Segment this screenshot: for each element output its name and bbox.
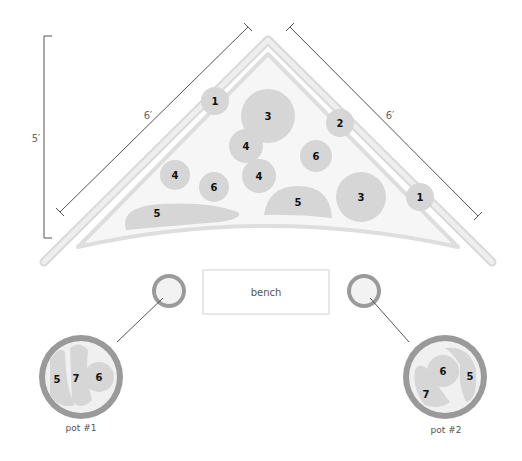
svg-text:1: 1 [417, 192, 424, 203]
svg-text:1: 1 [212, 96, 219, 107]
svg-text:3: 3 [265, 111, 272, 122]
small-pot-left [152, 274, 186, 308]
svg-text:6: 6 [211, 182, 218, 193]
height-label: 5′ [32, 133, 41, 144]
right-side-label: 6′ [386, 110, 395, 121]
bed-frame [44, 40, 492, 262]
svg-text:2: 2 [337, 118, 344, 129]
plant-label: 5 [154, 208, 161, 219]
pot-1: 5 7 6 [39, 335, 123, 419]
svg-text:7: 7 [73, 373, 80, 384]
svg-text:5: 5 [54, 374, 61, 385]
svg-text:4: 4 [172, 170, 179, 181]
svg-text:6: 6 [440, 366, 447, 377]
svg-text:3: 3 [358, 192, 365, 203]
pot-2-label: pot #2 [431, 425, 462, 435]
pot-2: 6 5 7 [403, 335, 487, 419]
svg-text:6: 6 [96, 372, 103, 383]
svg-text:6: 6 [313, 151, 320, 162]
left-side-label: 6′ [144, 110, 153, 121]
pot-1-label: pot #1 [66, 423, 97, 433]
svg-text:4: 4 [243, 141, 250, 152]
height-dimension [44, 36, 52, 238]
small-pot-right [347, 274, 381, 308]
svg-text:4: 4 [256, 171, 263, 182]
svg-text:7: 7 [423, 389, 430, 400]
bench-label: bench [251, 287, 282, 298]
plant-label: 5 [295, 197, 302, 208]
svg-text:5: 5 [467, 371, 474, 382]
garden-plan: 5′ 6′ 6′ 5 5 1 3 2 4 6 4 4 6 3 1 bench [0, 0, 522, 461]
